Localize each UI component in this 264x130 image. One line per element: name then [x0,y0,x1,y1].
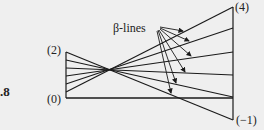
label-top-left: (2) [47,44,61,56]
label-bottom-left: (0) [47,93,61,105]
label-top-right: (4) [235,1,249,13]
beta-lines-diagram [0,0,264,130]
figure-number: .8 [0,86,10,98]
fan-lines [66,7,233,120]
label-beta-lines: β-lines [113,22,146,34]
label-bottom-right: (−1) [236,114,257,126]
